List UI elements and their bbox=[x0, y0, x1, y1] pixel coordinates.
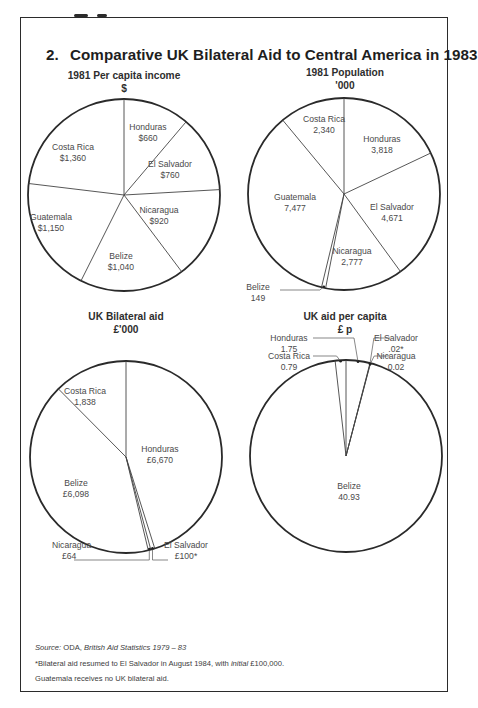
slice-value: $1,360 bbox=[60, 153, 87, 163]
leader-arrow-icon bbox=[148, 548, 151, 551]
slice-label: Nicaragua bbox=[332, 246, 371, 256]
slice-value: $1,150 bbox=[38, 223, 65, 233]
leader-line bbox=[313, 338, 358, 362]
slice-value: $920 bbox=[149, 216, 168, 226]
slice-value: 4,671 bbox=[381, 213, 403, 223]
callout-value: 0.02 bbox=[388, 362, 405, 372]
slice-label: Honduras bbox=[363, 134, 400, 144]
leader-arrow-icon bbox=[339, 360, 342, 363]
slice-label: Guatemala bbox=[30, 212, 72, 222]
callout-label: Belize bbox=[246, 282, 270, 292]
slice-label: El Salvador bbox=[148, 159, 192, 169]
callout-value: 149 bbox=[251, 293, 266, 303]
callout-label: Nicaragua bbox=[52, 540, 91, 550]
guatemala-note: Guatemala receives no UK bilateral aid. bbox=[35, 671, 284, 687]
slice-label: Belize bbox=[109, 251, 133, 261]
slice-value: 7,477 bbox=[284, 203, 306, 213]
leader-arrow-icon bbox=[323, 286, 326, 289]
slice-value: 2,777 bbox=[341, 257, 363, 267]
leader-arrow-icon bbox=[369, 363, 372, 366]
slice-label: Costa Rica bbox=[303, 114, 345, 124]
pie-aid-per-capita: Honduras1.75El Salvador.02*Nicaragua0.02… bbox=[250, 333, 442, 552]
pie-uk-aid: Honduras£6,670El Salvador£100*Nicaragua£… bbox=[30, 361, 222, 561]
slice-label: Belize bbox=[337, 481, 361, 491]
slice-value: 1,838 bbox=[74, 397, 96, 407]
slice-value: £6,670 bbox=[147, 455, 174, 465]
callout-value: £100* bbox=[175, 551, 198, 561]
callout-label: Costa Rica bbox=[268, 351, 310, 361]
callout-value: £64 bbox=[62, 551, 77, 561]
slice-label: Belize bbox=[64, 478, 88, 488]
notes: Source: ODA, British Aid Statistics 1979… bbox=[35, 640, 284, 687]
callout-value: 0.79 bbox=[281, 362, 298, 372]
slice-value: 40.93 bbox=[338, 492, 360, 502]
slice-label: El Salvador bbox=[370, 202, 414, 212]
slice-label: Honduras bbox=[129, 122, 166, 132]
slice-value: $760 bbox=[160, 170, 179, 180]
slice-label: Guatemala bbox=[274, 192, 316, 202]
slice-value: $1,040 bbox=[108, 262, 135, 272]
leader-line bbox=[280, 287, 324, 290]
slice-value: 2,340 bbox=[313, 125, 335, 135]
leader-arrow-icon bbox=[151, 547, 154, 550]
slice-label: Costa Rica bbox=[52, 142, 94, 152]
callout-label: El Salvador bbox=[164, 540, 208, 550]
source-line: Source: ODA, British Aid Statistics 1979… bbox=[35, 640, 284, 656]
slice-label: Nicaragua bbox=[139, 205, 178, 215]
pie-income: Honduras$660El Salvador$760Nicaragua$920… bbox=[28, 99, 220, 291]
leader-arrow-icon bbox=[357, 361, 360, 364]
slice-value: $660 bbox=[138, 133, 157, 143]
slice-value: 3,818 bbox=[371, 145, 393, 155]
slice-label: Honduras bbox=[141, 444, 178, 454]
callout-label: Honduras bbox=[270, 333, 307, 343]
pie-population: Honduras3,818El Salvador4,671Nicaragua2,… bbox=[246, 98, 440, 303]
slice-label: Costa Rica bbox=[64, 386, 106, 396]
slice-value: £6,098 bbox=[63, 489, 90, 499]
footnote: *Bilateral aid resumed to El Salvador in… bbox=[35, 656, 284, 672]
